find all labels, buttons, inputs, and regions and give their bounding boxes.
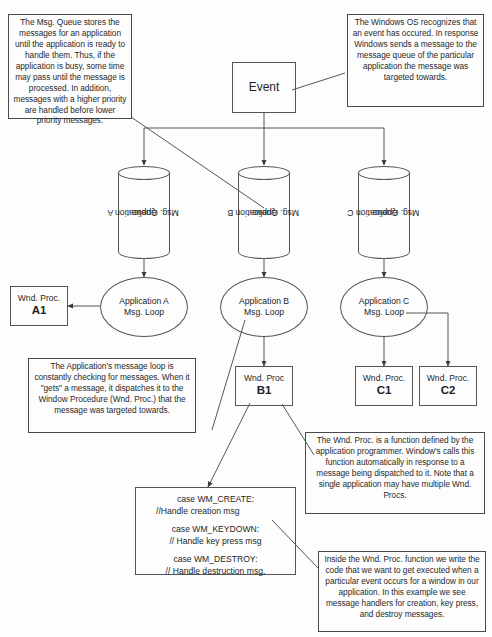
annotation-wnd-proc: The Wnd. Proc. is a function defined by …: [305, 432, 485, 514]
wnd-proc-b1-title: Wnd. Proc: [244, 374, 284, 384]
wnd-proc-c2-title: Wnd. Proc.: [427, 374, 470, 384]
loop-a-line1: Application A: [119, 296, 169, 307]
queue-application-a: Application A Msg. Queue: [118, 166, 170, 259]
wnd-proc-c1-title: Wnd. Proc.: [363, 374, 406, 384]
case-wm-keydown: case WM_KEYDOWN:: [142, 524, 289, 536]
code-spacer: [142, 517, 289, 524]
loop-a-line2: Msg. Loop: [124, 307, 164, 318]
annotation-message-loop: The Application's message loop is consta…: [28, 358, 196, 433]
queue-application-b: Application B Msg. Queue: [238, 166, 290, 259]
comment-wm-keydown: // Handle key press msg: [142, 536, 289, 548]
queue-c-line2: Msg. Queue: [370, 207, 421, 219]
wnd-proc-a1-title: Wnd. Proc.: [18, 294, 61, 304]
loop-application-b: Application B Msg. Loop: [220, 277, 308, 337]
diagram-canvas: The Msg. Queue stores the messages for a…: [0, 0, 492, 637]
queue-application-c: Application C Msg. Queue: [358, 166, 410, 259]
annotation-windows-os: The Windows OS recognizes that an event …: [347, 14, 484, 107]
wnd-proc-c2-name: C2: [441, 384, 456, 398]
annotation-msg-queue: The Msg. Queue stores the messages for a…: [8, 14, 132, 119]
wnd-proc-a1: Wnd. Proc. A1: [10, 286, 68, 326]
loop-application-c: Application C Msg. Loop: [340, 277, 428, 337]
queue-c-text: Application C Msg. Queue: [358, 166, 410, 259]
wnd-proc-c1-name: C1: [377, 384, 392, 398]
loop-c-line2: Msg. Loop: [364, 307, 404, 318]
loop-b-line1: Application B: [239, 296, 289, 307]
loop-c-line1: Application C: [359, 296, 410, 307]
loop-b-line2: Msg. Loop: [244, 307, 284, 318]
wnd-proc-c2: Wnd. Proc. C2: [419, 366, 477, 406]
event-label: Event: [249, 81, 280, 95]
wnd-proc-b1-name: B1: [257, 384, 272, 398]
wnd-proc-b1: Wnd. Proc B1: [235, 366, 293, 406]
annotation-message-handlers: Inside the Wnd. Proc. function we write …: [318, 551, 486, 632]
queue-b-text: Application B Msg. Queue: [238, 166, 290, 259]
queue-a-line2: Msg. Queue: [131, 207, 181, 219]
case-wm-create: case WM_CREATE:: [142, 494, 289, 506]
comment-wm-destroy: // Handle destruction msg.: [142, 566, 289, 578]
loop-application-a: Application A Msg. Loop: [100, 277, 188, 337]
comment-wm-create: //Handle creation msg: [142, 506, 289, 518]
event-box: Event: [232, 62, 296, 113]
wnd-proc-a1-name: A1: [32, 304, 47, 318]
message-handler-code-box: case WM_CREATE: //Handle creation msg ca…: [135, 487, 296, 575]
wnd-proc-c1: Wnd. Proc. C1: [355, 366, 413, 406]
queue-a-text: Application A Msg. Queue: [118, 166, 170, 259]
queue-b-line2: Msg. Queue: [251, 207, 301, 219]
case-wm-destroy: case WM_DESTROY:: [142, 554, 289, 566]
code-spacer: [142, 547, 289, 554]
